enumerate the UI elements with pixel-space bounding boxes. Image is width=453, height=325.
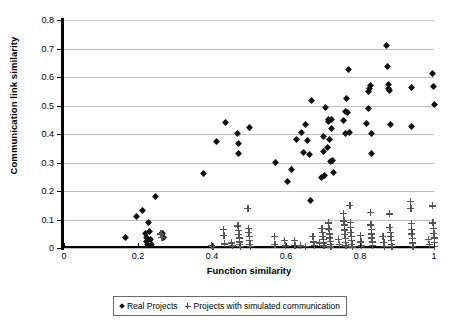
gridline xyxy=(64,163,434,164)
data-point-real xyxy=(408,84,415,91)
y-axis-tick xyxy=(57,20,62,21)
data-point-real xyxy=(235,150,242,157)
x-axis-tick xyxy=(212,243,213,247)
scatter-chart-figure: Communication link similarity 00.10.20.3… xyxy=(0,0,453,325)
data-point-real xyxy=(245,124,252,131)
data-point-real xyxy=(222,118,229,125)
x-axis-tick-label: 0 xyxy=(49,252,79,261)
data-point-simulated xyxy=(349,243,356,250)
data-point-real xyxy=(302,121,309,128)
data-point-simulated xyxy=(346,202,353,209)
data-point-real xyxy=(384,63,391,70)
data-point-real xyxy=(200,170,207,177)
data-point-simulated xyxy=(229,242,236,249)
data-point-real xyxy=(272,159,279,166)
gridline xyxy=(64,77,434,78)
data-point-simulated xyxy=(388,243,395,250)
data-point-real xyxy=(328,125,335,132)
y-axis-title: Communication link similarity xyxy=(8,21,19,191)
y-axis-tick xyxy=(57,134,62,135)
data-point-real xyxy=(430,83,437,90)
y-axis-tick xyxy=(57,191,62,192)
x-axis-tick-label: 0.2 xyxy=(123,252,153,261)
gridline xyxy=(64,191,434,192)
y-axis-tick-label: 0.7 xyxy=(30,45,54,54)
gridline xyxy=(64,106,434,107)
data-point-simulated xyxy=(244,205,251,212)
data-point-simulated xyxy=(327,243,334,250)
data-point-real xyxy=(122,234,129,241)
x-axis-tick xyxy=(64,243,65,247)
data-point-simulated xyxy=(367,209,374,216)
y-axis-tick xyxy=(57,248,62,249)
y-axis-tick xyxy=(57,106,62,107)
data-point-real xyxy=(345,65,352,72)
legend-label-real-projects: Real Projects xyxy=(127,301,178,311)
data-point-real xyxy=(152,193,159,200)
x-axis-title: Function similarity xyxy=(64,265,434,276)
data-point-simulated xyxy=(237,243,244,250)
data-point-simulated xyxy=(340,210,347,217)
legend-item-real-projects: Real Projects xyxy=(120,301,178,311)
data-point-real xyxy=(368,150,375,157)
data-point-simulated xyxy=(407,205,414,212)
y-axis-tick-label: 0.8 xyxy=(30,16,54,25)
data-point-real xyxy=(326,136,333,143)
diamond-marker-icon xyxy=(119,303,125,309)
data-point-real xyxy=(234,130,241,137)
legend-label-simulated-projects: Projects with simulated communication xyxy=(194,301,340,311)
data-point-real xyxy=(235,140,242,147)
data-point-real xyxy=(330,169,337,176)
data-point-real xyxy=(288,166,295,173)
data-point-real xyxy=(430,101,437,108)
y-axis-tick-label: 0.2 xyxy=(30,187,54,196)
x-axis-tick-label: 1 xyxy=(419,252,449,261)
data-point-simulated xyxy=(247,243,254,250)
plot-area xyxy=(64,20,434,248)
data-point-simulated xyxy=(369,242,376,249)
data-point-simulated xyxy=(220,232,227,239)
data-point-real xyxy=(368,130,375,137)
y-axis-tick-label: 0.5 xyxy=(30,102,54,111)
y-axis-tick-label: 0.3 xyxy=(30,159,54,168)
plus-marker-icon xyxy=(185,303,191,309)
data-point-real xyxy=(343,95,350,102)
data-point-real xyxy=(139,207,146,214)
data-point-real xyxy=(340,117,347,124)
y-axis-tick xyxy=(57,49,62,50)
x-axis-tick xyxy=(360,243,361,247)
data-point-simulated xyxy=(409,243,416,250)
legend-item-simulated-projects: Projects with simulated communication xyxy=(185,301,340,311)
data-point-real xyxy=(306,151,313,158)
data-point-real xyxy=(387,121,394,128)
x-axis-tick-label: 0.4 xyxy=(197,252,227,261)
data-point-real xyxy=(308,97,315,104)
data-point-real xyxy=(293,136,300,143)
data-point-real xyxy=(408,122,415,129)
chart-legend: Real Projects Projects with simulated co… xyxy=(113,296,347,316)
data-point-real xyxy=(304,137,311,144)
data-point-simulated xyxy=(271,241,278,248)
x-axis-tick-label: 0.6 xyxy=(271,252,301,261)
x-axis-tick xyxy=(286,243,287,247)
data-point-real xyxy=(284,178,291,185)
data-point-real xyxy=(298,129,305,136)
data-point-real xyxy=(213,138,220,145)
gridline xyxy=(64,49,434,50)
gridline xyxy=(64,220,434,221)
x-axis-tick xyxy=(138,243,139,247)
y-axis-tick xyxy=(57,163,62,164)
data-point-simulated xyxy=(381,243,388,250)
data-point-simulated xyxy=(271,233,278,240)
data-point-simulated xyxy=(386,210,393,217)
data-point-simulated xyxy=(302,243,309,250)
gridline xyxy=(64,134,434,135)
y-axis-tick-label: 0.1 xyxy=(30,216,54,225)
data-point-real xyxy=(363,120,370,127)
x-axis-tick xyxy=(434,243,435,247)
x-axis-tick-label: 0.8 xyxy=(345,252,375,261)
data-point-real xyxy=(307,197,314,204)
y-axis-tick-label: 0.6 xyxy=(30,73,54,82)
data-point-simulated xyxy=(429,202,436,209)
y-axis-tick xyxy=(57,220,62,221)
